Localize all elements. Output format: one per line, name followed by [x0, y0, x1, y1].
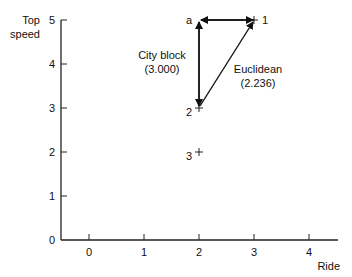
euclidean-value: (2.236) — [241, 77, 276, 89]
point-label-a: a — [186, 14, 193, 26]
y-ticks — [61, 20, 67, 196]
x-tick-2: 2 — [196, 246, 202, 258]
point-3-marker — [195, 148, 203, 156]
city-block-label: City block — [138, 49, 186, 61]
x-tick-3: 3 — [251, 246, 257, 258]
y-tick-5: 5 — [49, 14, 55, 26]
x-tick-0: 0 — [86, 246, 92, 258]
y-tick-0: 0 — [49, 234, 55, 246]
y-axis-label-line1: Top — [22, 14, 40, 26]
distance-chart: 5 4 3 2 1 0 0 1 2 3 4 Top speed Ride a 1 — [0, 0, 352, 277]
x-ticks — [89, 234, 309, 240]
point-label-1: 1 — [262, 14, 268, 26]
point-label-2: 2 — [186, 106, 192, 118]
y-tick-labels: 5 4 3 2 1 0 — [49, 14, 55, 246]
y-tick-2: 2 — [49, 146, 55, 158]
x-axis-label: Ride — [317, 260, 340, 272]
city-block-value: (3.000) — [145, 63, 180, 75]
point-label-3: 3 — [186, 150, 192, 162]
x-tick-labels: 0 1 2 3 4 — [86, 246, 312, 258]
y-tick-1: 1 — [49, 190, 55, 202]
x-tick-4: 4 — [306, 246, 312, 258]
euclidean-label: Euclidean — [234, 63, 282, 75]
y-axis-label-line2: speed — [10, 28, 40, 40]
y-tick-3: 3 — [49, 102, 55, 114]
y-tick-4: 4 — [49, 58, 55, 70]
x-tick-1: 1 — [141, 246, 147, 258]
